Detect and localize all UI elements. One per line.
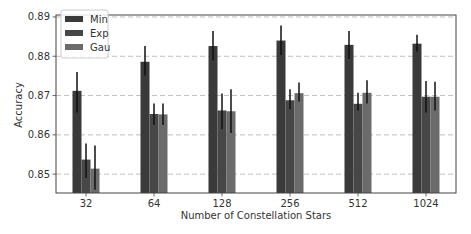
- gridlines: [56, 17, 456, 174]
- y-tick-label: 0.87: [28, 90, 50, 101]
- bar-min: [345, 45, 354, 193]
- y-axis-label: Accuracy: [13, 82, 24, 128]
- bar-gau: [431, 97, 440, 193]
- legend-swatch: [65, 30, 83, 36]
- x-tick-label: 32: [80, 198, 93, 209]
- x-tick-label: 128: [212, 198, 231, 209]
- error-bars: [77, 26, 435, 190]
- plot-frame: [56, 15, 456, 193]
- bar-min: [277, 41, 286, 193]
- bar-series: [73, 41, 440, 193]
- x-axis-ticks: 32641282565121024: [80, 193, 439, 209]
- bar-chart: 0.850.860.870.880.89 32641282565121024 N…: [0, 0, 471, 234]
- x-axis-label: Number of Constellation Stars: [181, 210, 332, 221]
- y-tick-label: 0.88: [28, 51, 50, 62]
- bar-min: [209, 46, 218, 193]
- legend-label: Gau: [90, 42, 110, 53]
- bar-min: [413, 44, 422, 193]
- legend-label: Exp: [90, 28, 109, 39]
- legend-swatch: [65, 44, 83, 50]
- y-tick-label: 0.85: [28, 169, 50, 180]
- legend: MinExpGau: [61, 10, 110, 58]
- bar-min: [141, 62, 150, 193]
- legend-swatch: [65, 16, 83, 22]
- bar-exp: [286, 100, 295, 193]
- x-tick-label: 256: [280, 198, 299, 209]
- bar-exp: [354, 104, 363, 193]
- x-tick-label: 64: [148, 198, 161, 209]
- y-tick-label: 0.89: [28, 11, 50, 22]
- y-tick-label: 0.86: [28, 129, 50, 140]
- y-axis-ticks: 0.850.860.870.880.89: [28, 11, 56, 179]
- x-tick-label: 512: [348, 198, 367, 209]
- bar-gau: [363, 93, 372, 193]
- x-tick-label: 1024: [413, 198, 438, 209]
- legend-label: Min: [90, 14, 108, 25]
- bar-gau: [295, 93, 304, 193]
- bar-exp: [150, 114, 159, 193]
- bar-gau: [159, 114, 168, 193]
